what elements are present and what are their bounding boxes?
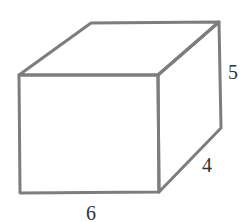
depth-label: 4: [202, 154, 212, 176]
rectangular-prism-diagram: 5 4 6: [0, 0, 245, 222]
width-label: 6: [86, 202, 96, 222]
height-label: 5: [228, 61, 238, 83]
front-face: [19, 75, 159, 193]
